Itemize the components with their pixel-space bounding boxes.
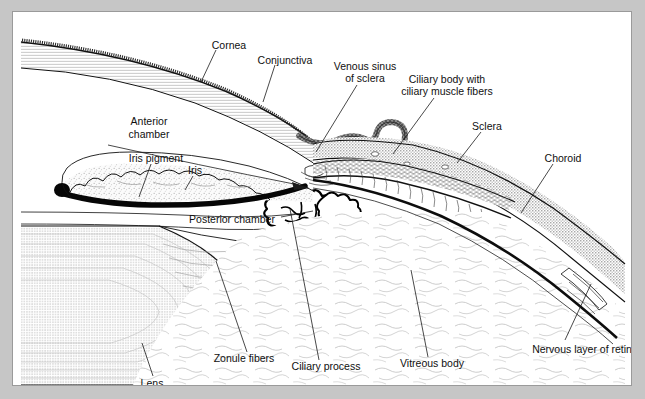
label-nervous-layer-of-retina: Nervous layer of retina (532, 343, 631, 355)
label-ciliary-body-line1: Ciliary body with (409, 73, 486, 85)
label-iris: Iris (188, 164, 202, 176)
scleral-lacuna (371, 152, 378, 157)
label-venous-sinus-line2: of sclera (345, 72, 385, 84)
figure-plate: Cornea Conjunctiva Venous sinus of scler… (12, 11, 632, 386)
leader-conjunctiva (263, 65, 275, 102)
label-vitreous-body: Vitreous body (400, 357, 465, 369)
label-iris-pigment: Iris pigment (129, 152, 183, 164)
label-venous-sinus-line1: Venous sinus (334, 60, 396, 72)
label-lens: Lens (141, 377, 164, 385)
label-anterior-chamber-line1: Anterior (131, 115, 168, 127)
label-ciliary-body-line2: ciliary muscle fibers (401, 85, 493, 97)
label-zonule-fibers: Zonule fibers (214, 352, 275, 364)
scleral-lacuna (442, 165, 449, 169)
eye-anatomy-diagram: Cornea Conjunctiva Venous sinus of scler… (13, 12, 631, 385)
label-choroid: Choroid (545, 152, 582, 164)
leader-cornea (201, 50, 216, 82)
label-sclera: Sclera (472, 120, 502, 132)
label-conjunctiva: Conjunctiva (258, 54, 313, 66)
figure-outer-frame: Cornea Conjunctiva Venous sinus of scler… (0, 0, 645, 399)
label-posterior-chamber: Posterior chamber (189, 213, 275, 225)
label-cornea: Cornea (212, 39, 247, 51)
label-ciliary-process: Ciliary process (292, 360, 361, 372)
label-anterior-chamber-line2: chamber (129, 128, 170, 140)
